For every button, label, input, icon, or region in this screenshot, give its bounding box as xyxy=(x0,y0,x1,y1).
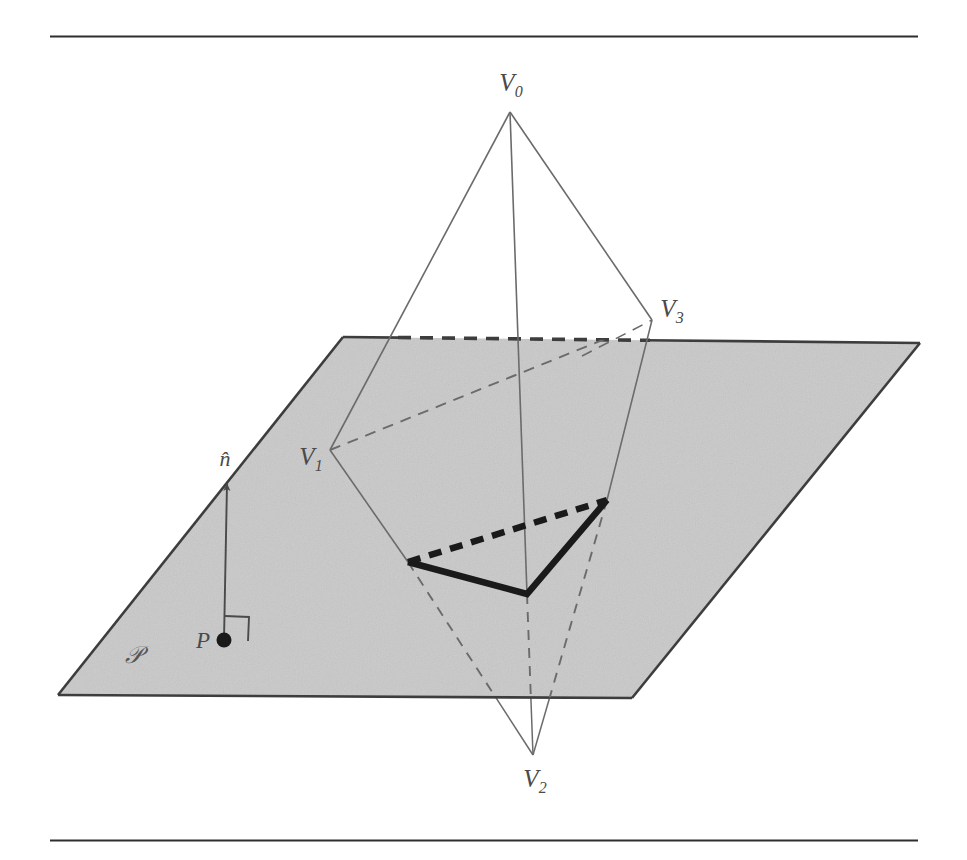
plane-P xyxy=(58,337,920,698)
point-p-dot xyxy=(217,633,232,648)
plane-edge-top-left-stub xyxy=(343,337,400,338)
label-v2-subscript: 2 xyxy=(539,779,547,796)
label-vertex-v0: V0 xyxy=(499,69,522,101)
label-v3-subscript: 3 xyxy=(676,309,684,326)
geometry-diagram xyxy=(0,0,967,860)
label-v0-subscript: 0 xyxy=(515,83,523,100)
label-v1-letter: V xyxy=(299,443,314,470)
plane-fill xyxy=(58,337,920,698)
label-vertex-v1: V1 xyxy=(299,443,322,475)
label-v0-letter: V xyxy=(499,69,514,96)
label-plane-p: 𝒫 xyxy=(125,641,142,669)
label-v2-letter: V xyxy=(523,765,538,792)
label-v1-subscript: 1 xyxy=(315,457,323,474)
label-vertex-v3: V3 xyxy=(660,295,683,327)
figure-root: V0 V1 V2 V3 n̂ P 𝒫 xyxy=(0,0,967,860)
label-v3-letter: V xyxy=(660,295,675,322)
label-vertex-v2: V2 xyxy=(523,765,546,797)
label-normal-vector: n̂ xyxy=(220,446,231,472)
label-point-p: P xyxy=(196,628,210,654)
edge-v0-v3 xyxy=(510,112,652,320)
